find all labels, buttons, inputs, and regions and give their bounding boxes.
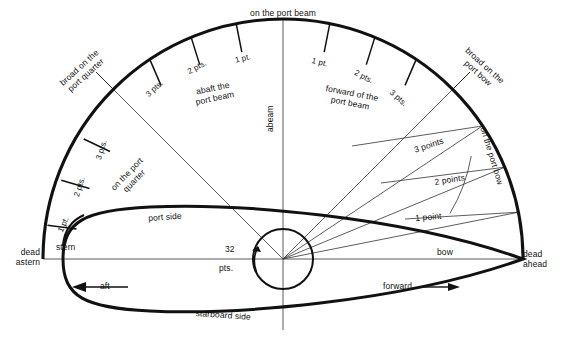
label-dead-ahead-line2: ahead: [523, 260, 562, 270]
tick-forward-3pts: [405, 60, 416, 86]
label-abeam: abeam: [266, 106, 276, 133]
label-dead-astern-line2: astern: [0, 258, 40, 268]
label-aft: aft: [100, 282, 110, 292]
label-stern: stern: [56, 243, 75, 253]
relative-bearing-diagram: on the port beam abeam dead astern dead …: [0, 0, 562, 339]
label-forward: forward: [383, 282, 412, 292]
tick-forward-2pts: [366, 37, 375, 64]
diagram-vector-canvas: [0, 0, 562, 339]
forward-arrow-head: [448, 283, 460, 291]
label-on-the-port-beam: on the port beam: [203, 9, 363, 19]
label-32-points-value: 32: [225, 245, 235, 255]
label-bow: bow: [437, 248, 453, 258]
label-32-points-unit: pts.: [219, 264, 233, 274]
leader-broad-port-quarter: [96, 72, 113, 89]
tick-abaft-1pt: [236, 24, 242, 53]
leader-broad-port-bow: [453, 72, 470, 89]
tick-forward-1pt: [324, 24, 330, 53]
arc-sector-1-point: [450, 186, 463, 214]
